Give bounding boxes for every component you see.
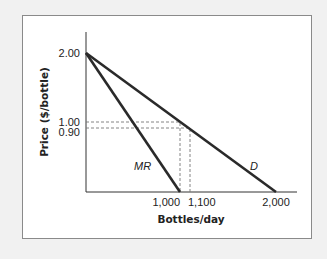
y-tick-2: 2.00: [59, 47, 80, 59]
chart: MR D 2.00 1.00 0.90 1,000 1,100 2,000 Bo…: [0, 0, 327, 259]
demand-curve: [86, 53, 276, 192]
x-tick-1000: 1,000: [152, 196, 180, 208]
mr-curve: [86, 53, 180, 192]
x-tick-2000: 2,000: [262, 196, 290, 208]
y-axis-title: Price ($/bottle): [38, 67, 50, 157]
x-axis-title: Bottles/day: [157, 213, 224, 225]
x-tick-1100: 1,100: [188, 196, 216, 208]
y-tick-09: 0.90: [59, 126, 80, 138]
d-label: D: [250, 160, 258, 172]
mr-label: MR: [134, 160, 151, 172]
